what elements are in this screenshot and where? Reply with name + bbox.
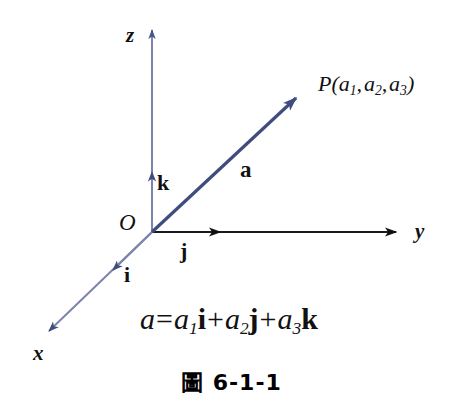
equation-term-3: a3k (278, 302, 318, 335)
vector-label-a: a (240, 158, 252, 181)
equation-term-1-unit: i (198, 302, 206, 335)
point-coord-2-base: a (364, 71, 375, 96)
axis-label-y: y (415, 221, 424, 242)
equation-term-2-sub: 2 (240, 318, 249, 338)
point-comma-1: , (357, 71, 363, 96)
figure-caption-prefix: 圖 (181, 370, 204, 395)
origin-label-O: O (119, 211, 136, 234)
point-coord-3-sub: 3 (400, 83, 407, 98)
vector-diagram-figure: z y x O k j i a P(a1, a2, a3) a=a1i+a2j+… (0, 0, 460, 420)
equation-term-2: a2j (225, 302, 259, 335)
equation-term-1: a1i (174, 302, 206, 335)
unit-vector-i-arrow (113, 232, 152, 270)
equation-term-3-unit: k (301, 302, 318, 335)
axis-label-z: z (126, 25, 134, 46)
coordinate-axes-drawing (0, 0, 460, 420)
equation-term-3-scalar: a (278, 302, 293, 335)
point-coord-3-base: a (389, 71, 400, 96)
equation-lhs: a (140, 302, 155, 335)
point-comma-2: , (382, 71, 388, 96)
point-coord-2: a2 (364, 71, 382, 96)
axis-x (49, 232, 152, 331)
unit-vector-label-i: i (124, 264, 130, 286)
equation-term-1-sub: 1 (189, 318, 198, 338)
point-coord-2-sub: 2 (375, 83, 382, 98)
equation-equals: = (155, 302, 174, 335)
vector-equation: a=a1i+a2j+a3k (140, 304, 318, 338)
vector-a-arrow (152, 98, 296, 232)
unit-vector-label-j: j (180, 240, 187, 262)
point-coord-1-sub: 1 (350, 83, 357, 98)
equation-plus-1: + (206, 302, 225, 335)
equation-term-2-scalar: a (225, 302, 240, 335)
point-coord-1-base: a (339, 71, 350, 96)
equation-term-3-sub: 3 (293, 318, 302, 338)
equation-term-2-unit: j (249, 302, 259, 335)
point-coord-1: a1 (339, 71, 357, 96)
point-label-P: P(a1, a2, a3) (318, 73, 414, 97)
point-open-paren: ( (331, 71, 338, 96)
point-name: P (318, 71, 331, 96)
point-close-paren: ) (407, 71, 414, 96)
axis-label-x: x (33, 343, 44, 364)
equation-plus-2: + (259, 302, 278, 335)
equation-term-1-scalar: a (174, 302, 189, 335)
figure-caption-number: 6-1-1 (213, 370, 282, 395)
figure-caption: 圖 6-1-1 (181, 372, 282, 394)
point-coord-3: a3 (389, 71, 407, 96)
unit-vector-label-k: k (157, 172, 169, 194)
